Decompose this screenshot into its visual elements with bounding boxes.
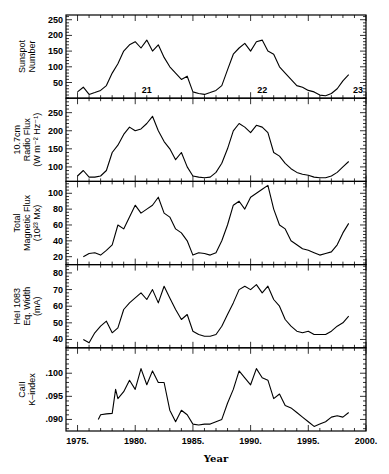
- y-tick-label: 150: [48, 46, 63, 56]
- y-tick-label: 40: [53, 236, 63, 246]
- data-line: [78, 40, 349, 96]
- y-tick-label: 80: [53, 268, 63, 278]
- y-axis-label: (W m⁻² Hz⁻¹): [32, 113, 42, 167]
- panel-frame: [66, 265, 366, 348]
- cycle-label: 23: [353, 85, 363, 95]
- y-axis-label: CaII: [17, 381, 27, 398]
- y-tick-label: 70: [53, 285, 63, 295]
- x-tick-label: 1975.: [66, 436, 89, 446]
- data-line: [83, 285, 348, 343]
- y-axis-label: (10²³ Mx): [32, 205, 42, 242]
- y-axis-label: Eq. Width: [22, 287, 32, 326]
- y-tick-label: 50: [53, 78, 63, 88]
- y-axis-label: HeI 1083: [12, 288, 22, 325]
- y-tick-label: 100: [48, 62, 63, 72]
- y-tick-label: 250: [48, 15, 63, 25]
- cycle-label: 22: [257, 85, 267, 95]
- data-line: [98, 369, 348, 427]
- y-tick-label: .095: [45, 391, 63, 401]
- panel-4: 4050607080HeI 1083Eq. Width(mA): [12, 265, 366, 348]
- y-tick-label: 20: [53, 252, 63, 262]
- x-tick-label: 1980.: [124, 436, 147, 446]
- y-tick-label: 40: [53, 334, 63, 344]
- y-tick-label: .100: [45, 368, 63, 378]
- y-tick-label: 60: [53, 220, 63, 230]
- y-tick-label: 200: [48, 30, 63, 40]
- y-axis-label: Number: [27, 41, 37, 73]
- y-axis-label: Sunspot: [17, 40, 27, 74]
- cycle-label: 21: [142, 85, 152, 95]
- x-tick-label: 1990.: [239, 436, 262, 446]
- y-tick-label: 200: [48, 126, 63, 136]
- y-tick-label: 60: [53, 301, 63, 311]
- panel-5: .090.095.100CaIIK–index: [17, 348, 366, 431]
- panel-frame: [66, 15, 366, 98]
- data-line: [83, 185, 348, 256]
- y-tick-label: 50: [53, 318, 63, 328]
- y-axis-label: Magnetic Flux: [22, 194, 32, 251]
- y-axis-label: K–index: [27, 373, 37, 406]
- panel-1: 50100150200250SunspotNumber212223: [17, 15, 366, 98]
- y-tick-label: 80: [53, 204, 63, 214]
- chart-panels: 50100150200250SunspotNumber2122231001502…: [12, 15, 366, 431]
- x-tick-label: 2000.: [355, 436, 378, 446]
- panel-frame: [66, 98, 366, 181]
- y-tick-label: 150: [48, 144, 63, 154]
- y-tick-label: 100: [48, 188, 63, 198]
- panel-3: 20406080100TotalMagnetic Flux(10²³ Mx): [12, 181, 366, 264]
- panel-frame: [66, 348, 366, 431]
- panel-2: 10015020025010.7cmRadio Flux(W m⁻² Hz⁻¹): [12, 98, 366, 181]
- y-axis-label: Total: [12, 213, 22, 232]
- x-axis-label: Year: [203, 453, 229, 464]
- y-tick-label: .090: [45, 414, 63, 424]
- y-axis-label: (mA): [32, 296, 42, 316]
- solar-activity-chart: 50100150200250SunspotNumber2122231001502…: [0, 0, 389, 474]
- data-line: [78, 116, 349, 178]
- y-tick-label: 100: [48, 162, 63, 172]
- y-axis-label: 10.7cm: [12, 125, 22, 155]
- x-tick-label: 1985.: [182, 436, 205, 446]
- x-tick-label: 1995.: [297, 436, 320, 446]
- y-axis-label: Radio Flux: [22, 118, 32, 162]
- y-tick-label: 250: [48, 108, 63, 118]
- x-axis: 1975.1980.1985.1990.1995.2000.: [66, 436, 377, 446]
